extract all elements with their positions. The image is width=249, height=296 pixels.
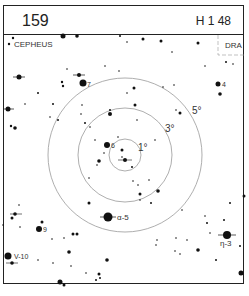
star-label-9: 9 — [43, 226, 47, 233]
star-label-7: 7 — [87, 81, 91, 88]
stars — [2, 34, 245, 287]
star-label-v10: V-10 — [14, 253, 29, 260]
ring-label-1: 1° — [138, 142, 148, 153]
constellation-dra: DRA — [225, 41, 243, 50]
constellation-cepheus: CEPHEUS — [14, 40, 53, 49]
ring-3deg — [78, 108, 172, 202]
ring-label-5: 5° — [192, 105, 202, 116]
star-label-eta3: η-3 — [220, 239, 232, 248]
ring-label-3: 3° — [165, 123, 175, 134]
star-label-6: 6 — [111, 142, 115, 149]
star-label-4: 4 — [222, 81, 226, 88]
ring-5deg — [48, 78, 202, 232]
star-field: CEPHEUS DRA 1° 3° 5° 7 4 6 α-5 9 V-10 η-… — [0, 0, 249, 296]
star-label-alpha5: α-5 — [117, 213, 129, 222]
